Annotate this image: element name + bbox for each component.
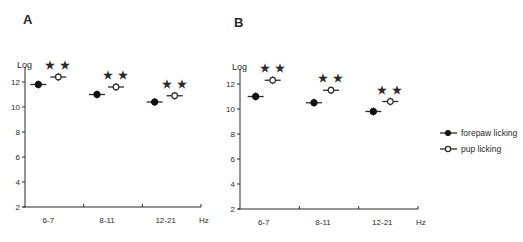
x-tick-label: 8-11 [315, 218, 331, 227]
panel-label: B [234, 15, 243, 30]
significance-marker: ★ ★ [45, 59, 71, 71]
data-point-pup [323, 86, 339, 94]
x-tick-label: 12-21 [155, 216, 176, 225]
y-tick-label: 4 [16, 178, 21, 187]
y-tick-label: 12 [226, 80, 235, 89]
y-tick-label: 4 [231, 180, 236, 189]
y-tick-label: 6 [231, 155, 236, 164]
x-tick-label: 8-11 [99, 216, 115, 225]
data-point-pup [265, 76, 281, 84]
panel-a: ALog246810126-78-1112-21Hz★ ★★ ★★ ★ [11, 12, 209, 225]
legend-item: forepaw licking [440, 128, 517, 138]
x-tick-label: 6-7 [43, 216, 55, 225]
y-tick-label: 2 [231, 205, 236, 214]
significance-marker: ★ ★ [318, 72, 344, 84]
y-tick-label: 8 [231, 130, 236, 139]
x-tick-label: 12-21 [372, 218, 393, 227]
legend: forepaw lickingpup licking [440, 128, 517, 154]
significance-marker: ★ ★ [103, 69, 129, 81]
legend-item: pup licking [440, 144, 501, 154]
y-tick-label: 6 [16, 153, 21, 162]
x-axis-label: Hz [416, 218, 426, 227]
data-point-pup [50, 73, 66, 81]
data-point-forepaw [89, 91, 105, 99]
data-point-forepaw [306, 99, 322, 107]
data-point-forepaw [248, 93, 264, 101]
data-point-forepaw [147, 98, 163, 106]
data-point-forepaw [30, 81, 46, 89]
y-tick-label: 10 [226, 105, 235, 114]
significance-marker: ★ ★ [260, 62, 286, 74]
y-tick-label: 12 [11, 78, 20, 87]
x-tick-label: 6-7 [258, 218, 270, 227]
legend-label: forepaw licking [461, 128, 517, 138]
y-tick-label: 10 [11, 103, 20, 112]
figure: ALog246810126-78-1112-21Hz★ ★★ ★★ ★BLog2… [0, 0, 523, 242]
data-point-pup [382, 98, 398, 106]
data-point-forepaw [365, 108, 381, 116]
data-point-pup [167, 92, 183, 100]
x-axis-label: Hz [199, 216, 209, 225]
panel-b: BLog246810126-78-1112-21Hz★ ★★ ★★ ★ [226, 15, 426, 227]
significance-marker: ★ ★ [377, 84, 403, 96]
data-point-pup [108, 83, 124, 91]
legend-label: pup licking [461, 144, 501, 154]
significance-marker: ★ ★ [162, 78, 188, 90]
panel-label: A [23, 12, 33, 27]
y-tick-label: 8 [16, 128, 21, 137]
y-tick-label: 2 [16, 203, 21, 212]
